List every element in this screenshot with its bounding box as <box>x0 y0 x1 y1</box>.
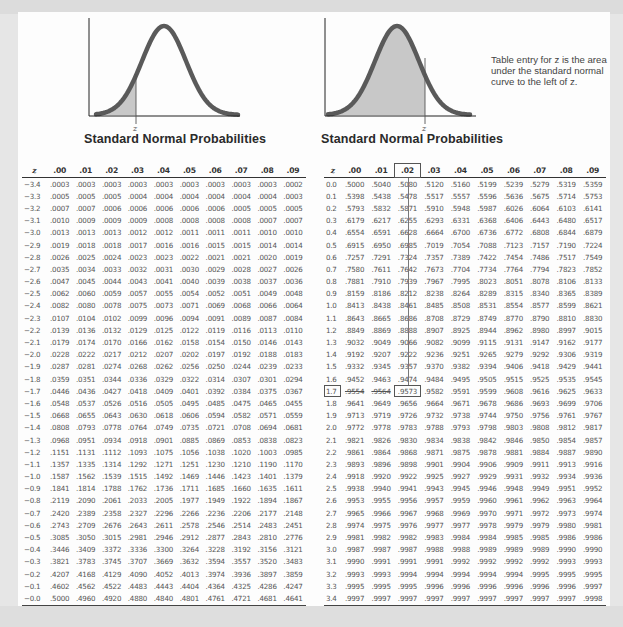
row-z-value: 2.7 <box>324 507 341 519</box>
table-row: 1.2.8849.8869.8888.8907.8925.8944.8962.8… <box>324 324 606 336</box>
probability-cell: .9664 <box>421 397 447 409</box>
probability-cell: .0082 <box>47 300 73 312</box>
probability-cell: .9564 <box>368 385 394 397</box>
row-z-value: −1.6 <box>22 397 47 409</box>
probability-cell: .2912 <box>176 531 202 543</box>
probability-cell: .3050 <box>73 531 99 543</box>
probability-cell: .9292 <box>527 349 553 361</box>
probability-cell: .0495 <box>176 397 202 409</box>
probability-cell: .0392 <box>202 385 228 397</box>
probability-cell: .2743 <box>47 519 73 531</box>
row-z-value: −1.8 <box>22 373 47 385</box>
probability-cell: .0010 <box>254 227 280 239</box>
probability-cell: .0465 <box>254 397 280 409</box>
probability-cell: .0197 <box>202 349 228 361</box>
probability-cell: .9901 <box>421 458 447 470</box>
table-row: 2.3.9893.9896.9898.9901.9904.9906.9909.9… <box>324 458 606 470</box>
probability-cell: .8133 <box>579 276 606 288</box>
probability-cell: .0013 <box>99 227 125 239</box>
column-header: .02 <box>394 163 420 178</box>
probability-cell: .8413 <box>341 300 367 312</box>
probability-cell: .1562 <box>73 471 99 483</box>
column-header: .07 <box>527 163 553 178</box>
table-row: 3.2.9993.9993.9994.9994.9994.9994.9994.9… <box>324 568 606 580</box>
table-row: −0.2.4207.4168.4129.4090.4052.4013.3974.… <box>22 568 306 580</box>
probability-cell: .8485 <box>421 300 447 312</box>
probability-cell: .9099 <box>447 336 473 348</box>
table-row: 1.6.9452.9463.9474.9484.9495.9505.9515.9… <box>324 373 606 385</box>
probability-cell: .2611 <box>150 519 176 531</box>
probability-cell: .9850 <box>527 434 553 446</box>
probability-cell: .0505 <box>150 397 176 409</box>
probability-cell: .9525 <box>527 373 553 385</box>
probability-cell: .9345 <box>368 361 394 373</box>
row-z-value: −0.3 <box>22 556 47 568</box>
probability-cell: .0044 <box>99 276 125 288</box>
probability-cell: .0655 <box>73 410 99 422</box>
probability-cell: .9515 <box>500 373 526 385</box>
probability-cell: .0013 <box>73 227 99 239</box>
probability-cell: .6480 <box>553 215 579 227</box>
probability-cell: .9993 <box>341 568 367 580</box>
probability-cell: .1251 <box>176 458 202 470</box>
probability-cell: .0351 <box>73 373 99 385</box>
probability-cell: .9920 <box>368 471 394 483</box>
probability-cell: .0016 <box>150 239 176 251</box>
probability-cell: .0011 <box>228 227 254 239</box>
probability-cell: .5753 <box>579 190 606 202</box>
probability-cell: .1401 <box>254 471 280 483</box>
probability-cell: .7764 <box>500 263 526 275</box>
probability-cell: .1949 <box>202 495 228 507</box>
probability-cell: .9767 <box>579 410 606 422</box>
probability-cell: .5793 <box>341 202 367 214</box>
probability-cell: .9857 <box>579 434 606 446</box>
probability-cell: .9861 <box>341 446 367 458</box>
table-row: −2.4.0082.0080.0078.0075.0073.0071.0069.… <box>22 300 306 312</box>
probability-cell: .9997 <box>368 592 394 605</box>
probability-cell: .8907 <box>421 324 447 336</box>
table-row: 0.0.5000.5040.5080.5120.5160.5199.5239.5… <box>324 178 606 191</box>
probability-cell: .9991 <box>421 556 447 568</box>
probability-cell: .2877 <box>202 531 228 543</box>
probability-cell: .7054 <box>447 239 473 251</box>
row-z-value: −1.7 <box>22 385 47 397</box>
probability-cell: .7995 <box>447 276 473 288</box>
probability-cell: .0007 <box>47 202 73 214</box>
probability-cell: .9803 <box>500 422 526 434</box>
probability-cell: .7704 <box>447 263 473 275</box>
probability-cell: .1131 <box>73 446 99 458</box>
probability-cell: .1711 <box>176 483 202 495</box>
probability-cell: .0048 <box>280 288 306 300</box>
table-row: 2.7.9965.9966.9967.9968.9969.9970.9971.9… <box>324 507 606 519</box>
table-row: 0.8.7881.7910.7939.7967.7995.8023.8051.8… <box>324 276 606 288</box>
probability-cell: .0192 <box>228 349 254 361</box>
probability-cell: .0918 <box>125 434 151 446</box>
probability-cell: .0026 <box>280 263 306 275</box>
probability-cell: .2514 <box>228 519 254 531</box>
probability-cell: .9997 <box>579 580 606 592</box>
probability-cell: .4602 <box>47 580 73 592</box>
table-row: 0.2.5793.5832.5871.5910.5948.5987.6026.6… <box>324 202 606 214</box>
probability-cell: .0274 <box>99 361 125 373</box>
probability-cell: .6406 <box>500 215 526 227</box>
probability-cell: .9265 <box>474 349 500 361</box>
row-z-value: 2.4 <box>324 471 341 483</box>
row-z-value: −2.3 <box>22 312 47 324</box>
probability-cell: .5987 <box>474 202 500 214</box>
column-header: .00 <box>47 163 73 178</box>
probability-cell: .0096 <box>150 312 176 324</box>
probability-cell: .9965 <box>341 507 367 519</box>
probability-cell: .9963 <box>553 495 579 507</box>
probability-cell: .8810 <box>553 312 579 324</box>
probability-cell: .9987 <box>341 544 367 556</box>
probability-cell: .0559 <box>280 410 306 422</box>
probability-cell: .9951 <box>553 483 579 495</box>
probability-cell: .0047 <box>47 276 73 288</box>
probability-cell: .9554 <box>341 385 367 397</box>
table-row: 2.9.9981.9982.9982.9983.9984.9984.9985.9… <box>324 531 606 543</box>
probability-cell: .9994 <box>421 568 447 580</box>
probability-cell: .9838 <box>447 434 473 446</box>
probability-cell: .6554 <box>341 227 367 239</box>
probability-cell: .9977 <box>421 519 447 531</box>
table-row: −2.9.0019.0018.0018.0017.0016.0016.0015.… <box>22 239 306 251</box>
